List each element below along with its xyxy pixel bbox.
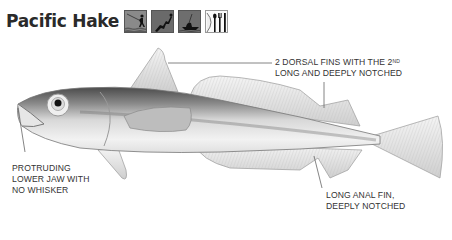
anal-label-line2: deeply notched bbox=[326, 201, 405, 211]
caudal-fin bbox=[372, 116, 443, 178]
jaw-label-line1: Protruding bbox=[12, 163, 71, 173]
anal-fin-label: Long anal fin, deeply notched bbox=[326, 190, 405, 212]
jaw-label-line3: no whisker bbox=[12, 185, 68, 195]
dorsal-label-line1: 2 dorsal fins with the 2 bbox=[275, 57, 392, 67]
dorsal-label-superscript: nd bbox=[392, 58, 399, 64]
anal-label-line1: Long anal fin, bbox=[326, 190, 394, 200]
jaw-label-line2: lower jaw with bbox=[12, 174, 89, 184]
jaw-label: Protruding lower jaw with no whisker bbox=[12, 163, 89, 196]
pelvic-fin bbox=[98, 148, 127, 179]
first-dorsal-fin bbox=[128, 48, 178, 92]
dorsal-label-line2: long and deeply notched bbox=[275, 68, 402, 78]
dorsal-fin-label: 2 dorsal fins with the 2nd long and deep… bbox=[275, 57, 402, 79]
